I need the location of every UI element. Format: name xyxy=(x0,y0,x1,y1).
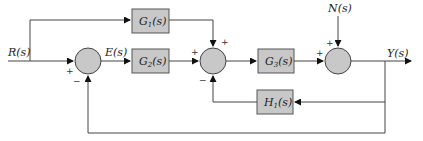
block-diagram: R(s) E(s) N(s) Y(s) G1(s) G2(s) G3(s) H1… xyxy=(0,0,423,141)
label-n: N(s) xyxy=(327,2,352,15)
sign-sum2-minus: − xyxy=(199,75,207,85)
label-g1: G1(s) xyxy=(139,15,167,29)
sign-sum2-plus-left: + xyxy=(191,47,199,57)
summing-junction-3 xyxy=(325,48,351,74)
summing-junction-1 xyxy=(75,48,101,74)
label-g2: G2(s) xyxy=(139,55,167,69)
label-g3: G3(s) xyxy=(265,55,293,69)
unity-feedback-wire xyxy=(88,76,385,133)
h1-out-wire xyxy=(213,76,257,102)
sign-sum3-plus-left: + xyxy=(316,48,324,58)
label-y: Y(s) xyxy=(387,47,409,60)
label-r: R(s) xyxy=(7,46,31,59)
g1-out-wire xyxy=(169,20,213,46)
label-h1: H1(s) xyxy=(263,96,292,110)
summing-junction-2 xyxy=(200,48,226,74)
sign-sum3-plus-top: + xyxy=(326,38,334,48)
sign-sum1-minus: − xyxy=(73,76,81,86)
sign-sum2-plus-top: + xyxy=(221,37,229,47)
sign-sum1-plus: + xyxy=(66,66,74,76)
label-e: E(s) xyxy=(104,46,127,59)
